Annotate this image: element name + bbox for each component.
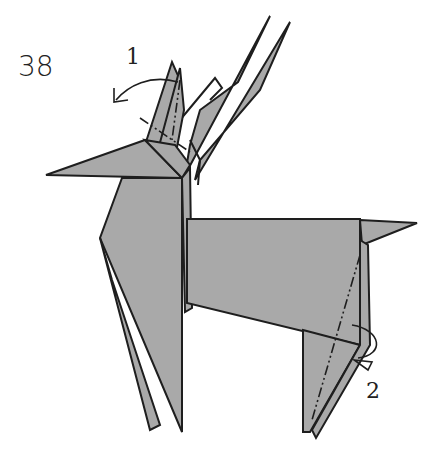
origami-diagram: 38 1 2 [0, 0, 437, 461]
front-body [100, 168, 192, 432]
deer-figure [0, 0, 437, 461]
head [46, 140, 190, 178]
torso [187, 219, 360, 345]
antlers [180, 16, 290, 185]
tail [360, 220, 417, 245]
